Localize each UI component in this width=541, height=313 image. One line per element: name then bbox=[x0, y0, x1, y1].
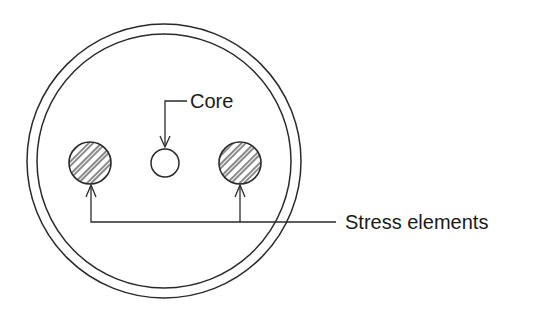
stress-elements-label: Stress elements bbox=[345, 211, 488, 233]
stress-element-right bbox=[219, 142, 261, 184]
core-label: Core bbox=[190, 90, 233, 112]
stress-element-left bbox=[69, 142, 111, 184]
core-fiber bbox=[151, 149, 179, 177]
cable-cross-section-diagram: Core Stress elements bbox=[0, 0, 541, 313]
core-leader-arrow bbox=[160, 101, 187, 147]
